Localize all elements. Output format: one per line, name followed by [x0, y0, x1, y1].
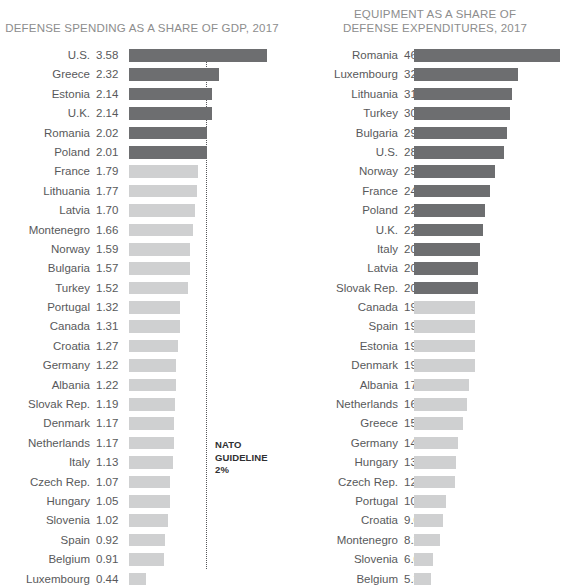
bar-row: Romania46.49 [290, 49, 580, 68]
bar-row: Denmark19.25 [290, 359, 580, 378]
defense-spending-value-label: 1.22 [96, 379, 126, 392]
defense-spending-bar [129, 49, 267, 62]
bar-row: Portugal10.31 [290, 495, 580, 514]
defense-spending-country-label: Estonia [0, 88, 90, 101]
bar-row: U.S.28.55 [290, 146, 580, 165]
equipment-share-country-label: Spain [300, 320, 398, 333]
defense-spending-value-label: 2.01 [96, 146, 126, 159]
equipment-share-bar [414, 301, 475, 314]
defense-spending-country-label: Portugal [0, 301, 90, 314]
equipment-share-country-label: Germany [300, 437, 398, 450]
equipment-share-bar [414, 340, 475, 353]
equipment-share-bar [414, 146, 504, 159]
bar-rows-equipment-share: Romania46.49Luxembourg32.99Lithuania31.0… [290, 49, 580, 587]
bar-row: Poland2.01 [0, 146, 290, 165]
bar-row: Poland22.50 [290, 204, 580, 223]
equipment-share-bar [414, 224, 483, 237]
defense-spending-country-label: Canada [0, 320, 90, 333]
bar-row: Estonia19.27 [290, 340, 580, 359]
bar-row: Croatia9.07 [290, 514, 580, 533]
defense-spending-country-label: Germany [0, 359, 90, 372]
defense-spending-country-label: Greece [0, 68, 90, 81]
defense-spending-country-label: Czech Rep. [0, 476, 90, 489]
defense-spending-country-label: Montenegro [0, 224, 90, 237]
equipment-share-country-label: Czech Rep. [300, 476, 398, 489]
equipment-share-country-label: Albania [300, 379, 398, 392]
equipment-share-bar [414, 437, 458, 450]
defense-spending-value-label: 2.32 [96, 68, 126, 81]
bar-row: Belgium0.91 [0, 553, 290, 572]
equipment-share-country-label: Italy [300, 243, 398, 256]
defense-spending-value-label: 2.14 [96, 107, 126, 120]
defense-spending-value-label: 1.57 [96, 262, 126, 275]
bar-row: Montenegro1.66 [0, 224, 290, 243]
bar-row: France24.17 [290, 185, 580, 204]
equipment-share-country-label: Norway [300, 165, 398, 178]
equipment-share-country-label: Montenegro [300, 534, 398, 547]
defense-spending-value-label: 2.02 [96, 127, 126, 140]
defense-spending-value-label: 0.91 [96, 553, 126, 566]
bar-row: Albania17.33 [290, 379, 580, 398]
bar-row: Slovenia1.02 [0, 514, 290, 533]
panel-defense-spending: DEFENSE SPENDING AS A SHARE OF GDP, 2017… [0, 0, 290, 587]
equipment-share-country-label: Turkey [300, 107, 398, 120]
equipment-share-country-label: U.K. [300, 224, 398, 237]
bar-row: Turkey30.40 [290, 107, 580, 126]
bar-row: Italy1.13 [0, 456, 290, 475]
bar-row: Luxembourg0.44 [0, 573, 290, 587]
bar-row: Greece2.32 [0, 68, 290, 87]
equipment-share-bar [414, 495, 446, 508]
equipment-share-bar [414, 88, 512, 101]
defense-spending-value-label: 1.70 [96, 204, 126, 217]
equipment-share-bar [414, 49, 560, 62]
bar-row: Turkey1.52 [0, 282, 290, 301]
defense-spending-bar [129, 185, 197, 198]
equipment-share-country-label: Latvia [300, 262, 398, 275]
bar-row: Romania2.02 [0, 127, 290, 146]
equipment-share-country-label: Canada [300, 301, 398, 314]
defense-spending-country-label: Slovak Rep. [0, 398, 90, 411]
defense-spending-bar [129, 553, 164, 566]
defense-spending-bar [129, 262, 190, 275]
defense-spending-bar [129, 243, 190, 256]
defense-spending-value-label: 1.31 [96, 320, 126, 333]
equipment-share-country-label: Lithuania [300, 88, 398, 101]
defense-spending-value-label: 1.07 [96, 476, 126, 489]
defense-spending-country-label: U.S. [0, 49, 90, 62]
equipment-share-bar [414, 417, 463, 430]
bar-row: Canada19.42 [290, 301, 580, 320]
bar-row: Bulgaria29.54 [290, 127, 580, 146]
defense-spending-bar [129, 107, 212, 120]
bar-row: Slovak Rep.20.16 [290, 282, 580, 301]
defense-spending-country-label: Luxembourg [0, 573, 90, 586]
bar-row: Latvia1.70 [0, 204, 290, 223]
equipment-share-country-label: Estonia [300, 340, 398, 353]
equipment-share-country-label: Slovenia [300, 553, 398, 566]
bar-row: Norway1.59 [0, 243, 290, 262]
bar-row: Spain0.92 [0, 534, 290, 553]
defense-spending-country-label: Poland [0, 146, 90, 159]
defense-spending-value-label: 1.59 [96, 243, 126, 256]
bar-row: Belgium5.30 [290, 573, 580, 587]
defense-spending-value-label: 1.79 [96, 165, 126, 178]
panel-equipment-share: EQUIPMENT AS A SHARE OF DEFENSE EXPENDIT… [290, 0, 580, 587]
defense-spending-bar [129, 301, 180, 314]
defense-spending-bar [129, 282, 188, 295]
bar-rows-defense-spending: U.S.3.58Greece2.32Estonia2.14U.K.2.14Rom… [0, 49, 290, 587]
defense-spending-bar [129, 204, 195, 217]
bar-row: Lithuania31.09 [290, 88, 580, 107]
defense-spending-value-label: 1.52 [96, 282, 126, 295]
defense-spending-country-label: Italy [0, 456, 90, 469]
defense-spending-bar [129, 165, 198, 178]
defense-spending-bar [129, 398, 175, 411]
defense-spending-country-label: Norway [0, 243, 90, 256]
equipment-share-country-label: Hungary [300, 456, 398, 469]
bar-row: Croatia1.27 [0, 340, 290, 359]
bar-row: Bulgaria1.57 [0, 262, 290, 281]
equipment-share-country-label: Greece [300, 417, 398, 430]
defense-spending-bar [129, 379, 176, 392]
bar-row: Montenegro8.20 [290, 534, 580, 553]
defense-spending-country-label: Romania [0, 127, 90, 140]
defense-spending-country-label: France [0, 165, 90, 178]
bar-row: Slovak Rep.1.19 [0, 398, 290, 417]
